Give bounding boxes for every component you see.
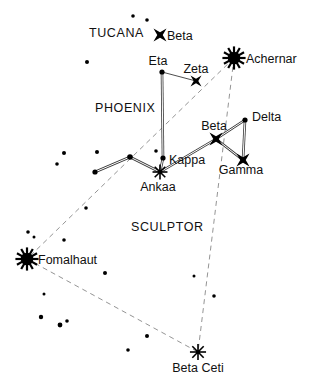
- background-star: [154, 149, 158, 153]
- star-label-beta-ceti: Beta Ceti: [172, 361, 223, 375]
- star-label-zeta-phoenicis: Zeta: [183, 62, 208, 76]
- constellation-label-tucana: TUCANA: [89, 26, 144, 40]
- star-label-beta-tucanae: Beta: [167, 29, 193, 43]
- constellation-label-phoenix: PHOENIX: [95, 101, 156, 115]
- star-marker-ankaa: [153, 165, 168, 180]
- background-star: [33, 236, 36, 239]
- background-star: [126, 348, 130, 352]
- background-star: [39, 315, 43, 319]
- background-star: [62, 151, 66, 155]
- star-label-kappa-phoenicis: Kappa: [169, 153, 205, 167]
- star-label-delta-phoenicis: Delta: [252, 110, 281, 124]
- background-star: [85, 60, 89, 64]
- star-label-achernar: Achernar: [246, 52, 297, 66]
- star-marker-beta-ceti: [190, 344, 206, 360]
- background-star: [95, 150, 99, 154]
- star-marker-eta-phoenicis: [159, 69, 164, 74]
- star-label-fomalhaut: Fomalhaut: [38, 253, 98, 267]
- background-star: [58, 323, 63, 328]
- constellation-label-sculptor: SCULPTOR: [131, 220, 204, 234]
- background-star: [26, 230, 30, 234]
- background-star: [55, 162, 59, 166]
- background-star: [92, 169, 97, 174]
- background-star: [62, 238, 66, 242]
- background-star: [65, 319, 69, 323]
- background-star: [103, 271, 107, 275]
- background-star: [145, 334, 149, 338]
- star-marker-delta-phoenicis: [242, 117, 247, 122]
- background-star: [84, 206, 88, 210]
- star-label-eta-phoenicis: Eta: [149, 54, 168, 68]
- background-star: [43, 293, 46, 296]
- background-star: [131, 14, 135, 18]
- star-label-ankaa: Ankaa: [140, 180, 175, 194]
- background-star: [145, 18, 149, 22]
- star-label-beta-phoenicis: Beta: [201, 119, 227, 133]
- background-star: [127, 154, 133, 160]
- background-star: [193, 275, 196, 278]
- star-chart: BetaAchernarEtaZetaDeltaBetaGammaKappaAn…: [0, 0, 309, 391]
- star-marker-kappa-phoenicis: [160, 155, 165, 160]
- background-star: [212, 294, 216, 298]
- star-label-gamma-phoenicis: Gamma: [219, 163, 264, 177]
